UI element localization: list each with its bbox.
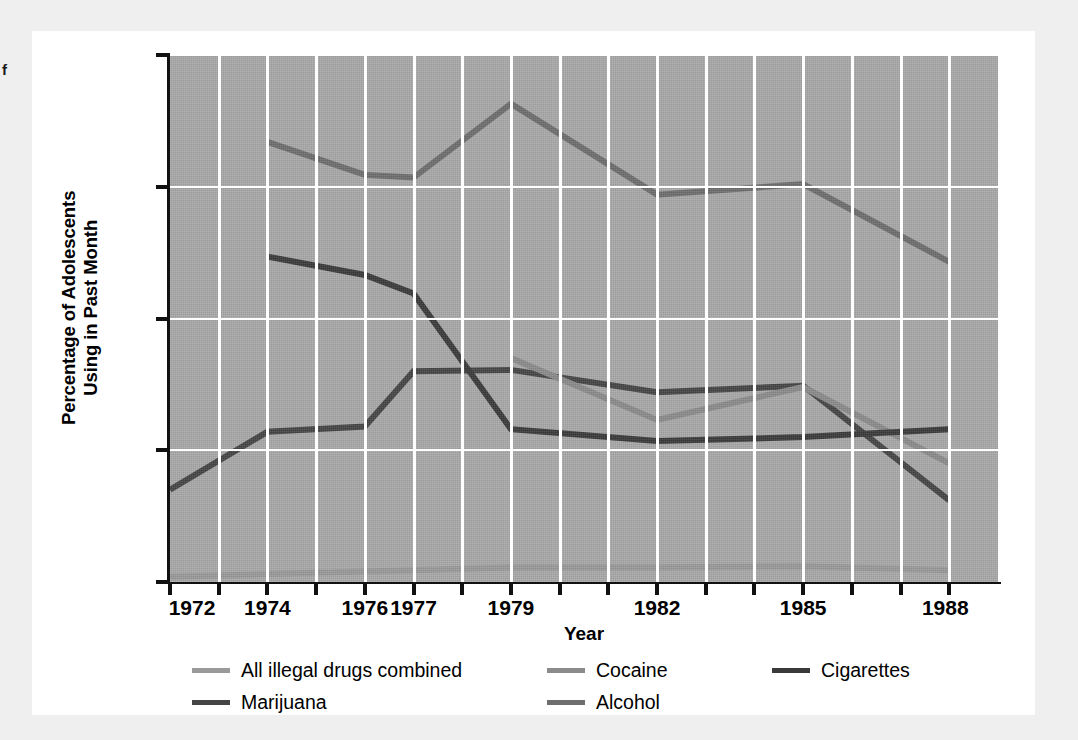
- legend-swatch: [192, 668, 230, 673]
- x-axis-tick-mark: [606, 582, 610, 595]
- legend-swatch: [547, 668, 585, 673]
- x-axis-tick-label: 1979: [488, 596, 535, 620]
- legend-label: Marijuana: [241, 691, 327, 714]
- gridline-vertical: [364, 55, 367, 582]
- gridline-vertical: [413, 55, 416, 582]
- line-chart: Percentage of Adolescents Using in Past …: [32, 31, 1035, 715]
- x-axis-tick-mark: [704, 582, 708, 595]
- gridline-vertical: [656, 55, 659, 582]
- gridline-vertical: [705, 55, 708, 582]
- x-axis-tick-mark: [168, 582, 172, 595]
- gridline-vertical: [510, 55, 513, 582]
- x-axis-tick-label: 1977: [390, 596, 437, 620]
- gridline-horizontal: [170, 449, 998, 451]
- gridline-vertical: [559, 55, 562, 582]
- legend-swatch: [547, 700, 585, 705]
- x-axis-tick-mark: [947, 582, 951, 595]
- x-axis-tick-mark: [850, 582, 854, 595]
- gridline-horizontal: [170, 318, 998, 320]
- gridline-vertical: [607, 55, 610, 582]
- gridline-horizontal: [170, 186, 998, 188]
- x-axis-tick-label: 1972: [169, 596, 216, 620]
- x-axis-tick-mark: [217, 582, 221, 595]
- y-axis-tick-mark: [156, 53, 170, 57]
- legend-label: All illegal drugs combined: [241, 659, 462, 682]
- x-axis-tick-mark: [899, 582, 903, 595]
- x-axis-tick-mark: [363, 582, 367, 595]
- gridline-horizontal: [170, 54, 998, 56]
- plot-area: 010203040: [170, 55, 998, 582]
- gridline-vertical: [218, 55, 221, 582]
- x-axis-tick-mark: [265, 582, 269, 595]
- gridline-vertical: [753, 55, 756, 582]
- x-axis-tick-label: 1982: [634, 596, 681, 620]
- x-axis-tick-mark: [509, 582, 513, 595]
- gridline-vertical: [461, 55, 464, 582]
- y-axis-title-line-1: Percentage of Adolescents: [58, 191, 79, 425]
- x-axis-tick-mark: [752, 582, 756, 595]
- gridline-vertical: [851, 55, 854, 582]
- x-axis-title: Year: [170, 623, 998, 645]
- y-axis-title-line-2: Using in Past Month: [80, 220, 101, 396]
- x-axis-tick-mark: [801, 582, 805, 595]
- legend-item[interactable]: Cocaine: [547, 659, 668, 682]
- x-axis-tick-label: 1985: [780, 596, 827, 620]
- legend-swatch: [192, 700, 230, 705]
- chart-legend: All illegal drugs combinedMarijuanaCocai…: [152, 659, 1032, 719]
- legend-swatch: [772, 668, 810, 673]
- legend-item[interactable]: Cigarettes: [772, 659, 910, 682]
- gridline-vertical: [315, 55, 318, 582]
- gridline-vertical: [900, 55, 903, 582]
- page-canvas: f Percentage of Adolescents Using in Pas…: [0, 0, 1078, 740]
- y-axis-tick-mark: [156, 185, 170, 189]
- legend-item[interactable]: Marijuana: [192, 691, 327, 714]
- x-axis-tick-mark: [655, 582, 659, 595]
- figure-card: Percentage of Adolescents Using in Past …: [32, 31, 1035, 715]
- x-axis-tick-label: 1976: [341, 596, 388, 620]
- x-axis-tick-label: 1988: [922, 596, 969, 620]
- x-axis-tick-mark: [412, 582, 416, 595]
- legend-label: Cigarettes: [821, 659, 910, 682]
- x-axis-tick-label: 1974: [244, 596, 291, 620]
- x-axis-tick-mark: [558, 582, 562, 595]
- legend-label: Alcohol: [596, 691, 660, 714]
- gridline-vertical: [266, 55, 269, 582]
- legend-item[interactable]: Alcohol: [547, 691, 660, 714]
- y-axis-tick-mark: [156, 448, 170, 452]
- legend-label: Cocaine: [596, 659, 668, 682]
- legend-item[interactable]: All illegal drugs combined: [192, 659, 462, 682]
- gridline-vertical: [802, 55, 805, 582]
- y-axis-tick-mark: [156, 317, 170, 321]
- margin-note: f: [2, 62, 7, 77]
- gridline-vertical: [948, 55, 951, 582]
- y-axis-title: Percentage of Adolescents Using in Past …: [58, 143, 102, 473]
- x-axis-tick-mark: [460, 582, 464, 595]
- x-axis-tick-mark: [314, 582, 318, 595]
